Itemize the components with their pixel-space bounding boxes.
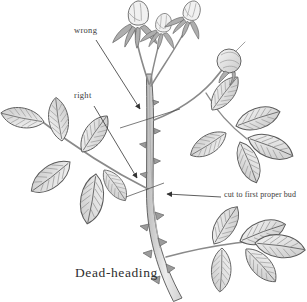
bloom-stalks bbox=[135, 23, 189, 86]
dead-heading-figure: wrong right cut to first proper bud Dead… bbox=[0, 0, 307, 302]
wrong-arrow-icon bbox=[96, 40, 140, 109]
cut-arrow-icon bbox=[167, 194, 221, 197]
right-label: right bbox=[74, 91, 92, 100]
spent-bloom bbox=[113, 1, 157, 48]
left-leaf-cluster bbox=[0, 96, 148, 226]
cut-instruction-label: cut to first proper bud bbox=[224, 191, 296, 199]
wrong-label: wrong bbox=[74, 26, 97, 35]
right-leaf-cluster bbox=[186, 71, 297, 186]
figure-caption: Dead-heading bbox=[75, 266, 158, 280]
right-cut-slash bbox=[126, 183, 164, 197]
bottom-leaf-cluster bbox=[166, 201, 307, 292]
rose-illustration-svg bbox=[0, 0, 307, 302]
